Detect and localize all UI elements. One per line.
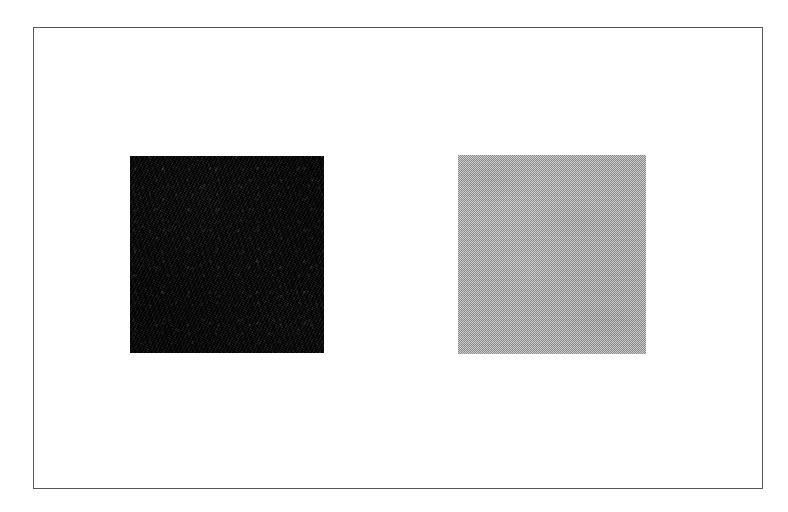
figure-canvas	[0, 0, 788, 512]
light-patch-texture	[458, 155, 646, 354]
dark-patch	[130, 156, 324, 353]
light-patch	[458, 155, 646, 354]
dark-patch-texture	[130, 156, 324, 353]
